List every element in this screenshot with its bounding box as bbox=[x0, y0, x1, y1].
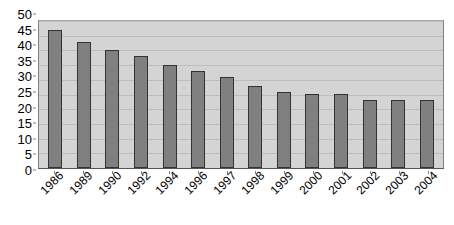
bar-1999[interactable] bbox=[277, 92, 291, 168]
y-axis-tick-mark bbox=[33, 60, 36, 61]
x-axis-slot: 1997 bbox=[212, 171, 241, 223]
y-axis-tick-mark bbox=[33, 154, 36, 155]
bar-2000[interactable] bbox=[305, 94, 319, 168]
x-axis-slot: 2004 bbox=[413, 171, 442, 223]
y-axis-tick-label: 25 bbox=[18, 86, 32, 99]
y-axis-tick-label: 20 bbox=[18, 101, 32, 114]
bar-2001[interactable] bbox=[334, 94, 348, 168]
x-axis-slot: 1994 bbox=[155, 171, 184, 223]
bar-slot bbox=[70, 21, 99, 168]
bar-1992[interactable] bbox=[134, 56, 148, 168]
x-axis-slot: 2001 bbox=[327, 171, 356, 223]
x-axis-tick-label: 2000 bbox=[297, 169, 324, 196]
x-axis-slot: 1996 bbox=[184, 171, 213, 223]
x-axis-slot: 2000 bbox=[298, 171, 327, 223]
y-axis-tick-mark bbox=[33, 29, 36, 30]
y-axis-tick-label: 0 bbox=[25, 164, 32, 177]
x-axis-slot: 1986 bbox=[40, 171, 69, 223]
bar-slot bbox=[98, 21, 127, 168]
plot-area bbox=[38, 20, 444, 169]
bar-2002[interactable] bbox=[363, 100, 377, 168]
x-axis-slot: 1992 bbox=[126, 171, 155, 223]
bar-slot bbox=[127, 21, 156, 168]
x-axis-tick-label: 1992 bbox=[125, 169, 152, 196]
x-axis-tick-label: 1996 bbox=[182, 169, 209, 196]
bar-slot bbox=[241, 21, 270, 168]
bars-group bbox=[39, 21, 443, 168]
y-axis-tick-mark bbox=[33, 123, 36, 124]
bar-1998[interactable] bbox=[248, 86, 262, 168]
x-axis-slot: 1989 bbox=[69, 171, 98, 223]
y-axis-tick-label: 40 bbox=[18, 39, 32, 52]
bar-1989[interactable] bbox=[77, 42, 91, 168]
x-axis-tick-label: 1999 bbox=[268, 169, 295, 196]
bar-slot bbox=[270, 21, 299, 168]
y-axis-tick-mark bbox=[33, 138, 36, 139]
x-axis-tick-label: 1989 bbox=[67, 169, 94, 196]
y-axis-tick-mark bbox=[33, 92, 36, 93]
x-axis-slot: 1990 bbox=[97, 171, 126, 223]
y-axis-tick-label: 15 bbox=[18, 117, 32, 130]
bar-1997[interactable] bbox=[220, 77, 234, 168]
y-axis-tick-mark bbox=[33, 76, 36, 77]
x-axis-slot: 2003 bbox=[385, 171, 414, 223]
x-axis-tick-label: 1990 bbox=[96, 169, 123, 196]
x-axis-slot: 1998 bbox=[241, 171, 270, 223]
x-axis-tick-label: 2004 bbox=[412, 169, 439, 196]
bar-slot bbox=[41, 21, 70, 168]
y-axis-tick-mark bbox=[33, 45, 36, 46]
bar-1990[interactable] bbox=[105, 50, 119, 168]
x-axis-tick-label: 2002 bbox=[354, 169, 381, 196]
y-axis-tick-label: 50 bbox=[18, 8, 32, 21]
bar-slot bbox=[413, 21, 442, 168]
y-axis-tick-label: 45 bbox=[18, 23, 32, 36]
bar-1986[interactable] bbox=[48, 30, 62, 168]
x-axis-tick-label: 1998 bbox=[240, 169, 267, 196]
bar-slot bbox=[212, 21, 241, 168]
x-axis: 1986198919901992199419961997199819992000… bbox=[38, 171, 444, 223]
bar-slot bbox=[384, 21, 413, 168]
bar-slot bbox=[184, 21, 213, 168]
bar-slot bbox=[327, 21, 356, 168]
y-axis-tick-mark bbox=[33, 14, 36, 15]
x-axis-tick-label: 2003 bbox=[383, 169, 410, 196]
x-axis-tick-label: 2001 bbox=[326, 169, 353, 196]
y-axis-tick-label: 35 bbox=[18, 54, 32, 67]
bar-2004[interactable] bbox=[420, 100, 434, 168]
y-axis-tick-label: 10 bbox=[18, 132, 32, 145]
x-axis-slot: 1999 bbox=[270, 171, 299, 223]
y-axis-tick-mark bbox=[33, 107, 36, 108]
x-axis-tick-label: 1997 bbox=[211, 169, 238, 196]
bar-slot bbox=[298, 21, 327, 168]
y-axis: 50454035302520151050 bbox=[0, 14, 36, 170]
bar-1996[interactable] bbox=[191, 71, 205, 168]
y-axis-tick-label: 5 bbox=[25, 148, 32, 161]
bar-1994[interactable] bbox=[163, 65, 177, 168]
x-axis-tick-label: 1994 bbox=[153, 169, 180, 196]
bar-slot bbox=[155, 21, 184, 168]
bar-chart: 50454035302520151050 1986198919901992199… bbox=[0, 0, 454, 225]
x-axis-tick-label: 1986 bbox=[39, 169, 66, 196]
bar-2003[interactable] bbox=[391, 100, 405, 168]
y-axis-tick-label: 30 bbox=[18, 70, 32, 83]
bar-slot bbox=[355, 21, 384, 168]
y-axis-tick-mark bbox=[33, 170, 36, 171]
x-axis-slot: 2002 bbox=[356, 171, 385, 223]
